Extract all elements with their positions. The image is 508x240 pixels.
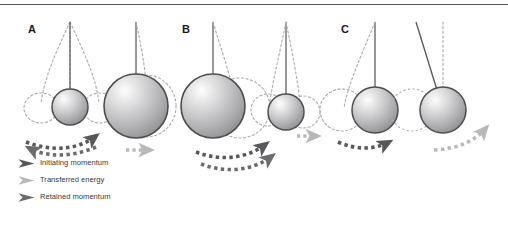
legend-label-transferred-energy: Transferred energy bbox=[40, 176, 104, 184]
legend-label-initiating-momentum: Initiating momentum bbox=[40, 159, 108, 167]
panel-a-large-ball bbox=[104, 74, 168, 138]
panel-label-a: A bbox=[28, 24, 36, 35]
panel-c-initiating-arrow bbox=[338, 142, 389, 148]
legend: Initiating momentum Transferred energy R… bbox=[18, 155, 178, 206]
legend-item-initiating-momentum: Initiating momentum bbox=[18, 155, 178, 171]
panel-b-large-ball bbox=[181, 74, 245, 138]
legend-label-retained-momentum: Retained momentum bbox=[40, 193, 111, 201]
transferred-energy-arrow-icon bbox=[18, 175, 35, 186]
panel-c-right-ball bbox=[420, 87, 466, 133]
panel-b-small-ball bbox=[268, 94, 304, 130]
legend-item-retained-momentum: Retained momentum bbox=[18, 189, 178, 205]
panel-b-initiating-arrow bbox=[196, 144, 266, 158]
panel-a-initiating-arrow bbox=[26, 136, 96, 148]
panel-label-c: C bbox=[341, 24, 349, 35]
legend-item-transferred-energy: Transferred energy bbox=[18, 172, 178, 188]
retained-momentum-arrow-icon bbox=[18, 192, 35, 203]
initiating-momentum-arrow-icon bbox=[18, 158, 35, 169]
panel-c-string-right bbox=[416, 22, 437, 90]
panel-a bbox=[24, 22, 176, 155]
panel-b bbox=[181, 22, 320, 170]
panel-c-left-ball bbox=[352, 87, 398, 133]
panel-a-small-ball bbox=[52, 89, 88, 125]
panel-label-b: B bbox=[182, 24, 190, 35]
panel-c bbox=[320, 22, 486, 150]
